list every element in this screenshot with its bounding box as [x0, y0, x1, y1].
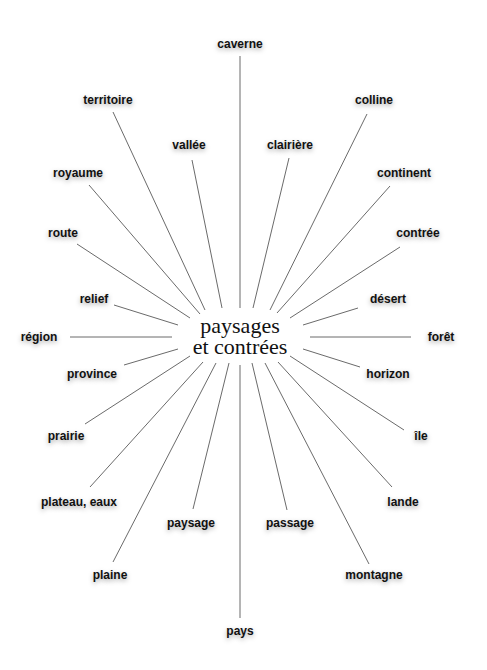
central-topic-line1: paysages [193, 315, 288, 336]
mind-map: paysages et contrées caverneterritoireva… [0, 0, 487, 670]
node-label: passage [266, 516, 314, 530]
central-topic: paysages et contrées [193, 315, 288, 357]
connector-line [303, 349, 360, 367]
connector-line [113, 363, 216, 562]
node-label: lande [387, 495, 418, 509]
node-label: plateau, eaux [41, 495, 117, 509]
node-label: clairière [267, 138, 313, 152]
connector-line [265, 363, 369, 564]
connector-line [303, 308, 358, 325]
node-label: île [414, 429, 427, 443]
connector-line [253, 158, 289, 308]
node-label: relief [80, 292, 109, 306]
connector-line [252, 363, 287, 510]
node-label: désert [370, 292, 406, 306]
node-label: plaine [93, 568, 128, 582]
connector-line [290, 247, 400, 318]
node-label: région [21, 330, 58, 344]
connector-line [124, 349, 178, 365]
central-topic-line2: et contrées [193, 336, 288, 357]
node-label: colline [355, 93, 393, 107]
connector-line [193, 363, 229, 509]
node-label: caverne [217, 37, 262, 51]
node-label: route [48, 226, 78, 240]
node-label: territoire [83, 93, 132, 107]
node-label: forêt [428, 330, 455, 344]
connector-line [114, 305, 178, 325]
connector-line [192, 160, 222, 308]
node-label: paysage [167, 516, 215, 530]
connector-line [77, 244, 190, 318]
node-label: prairie [48, 429, 85, 443]
node-label: montagne [345, 568, 402, 582]
node-label: province [67, 367, 117, 381]
node-label: horizon [366, 367, 409, 381]
node-label: continent [377, 166, 431, 180]
node-label: vallée [172, 138, 205, 152]
node-label: contrée [396, 226, 439, 240]
node-label: pays [226, 624, 253, 638]
node-label: royaume [53, 166, 103, 180]
